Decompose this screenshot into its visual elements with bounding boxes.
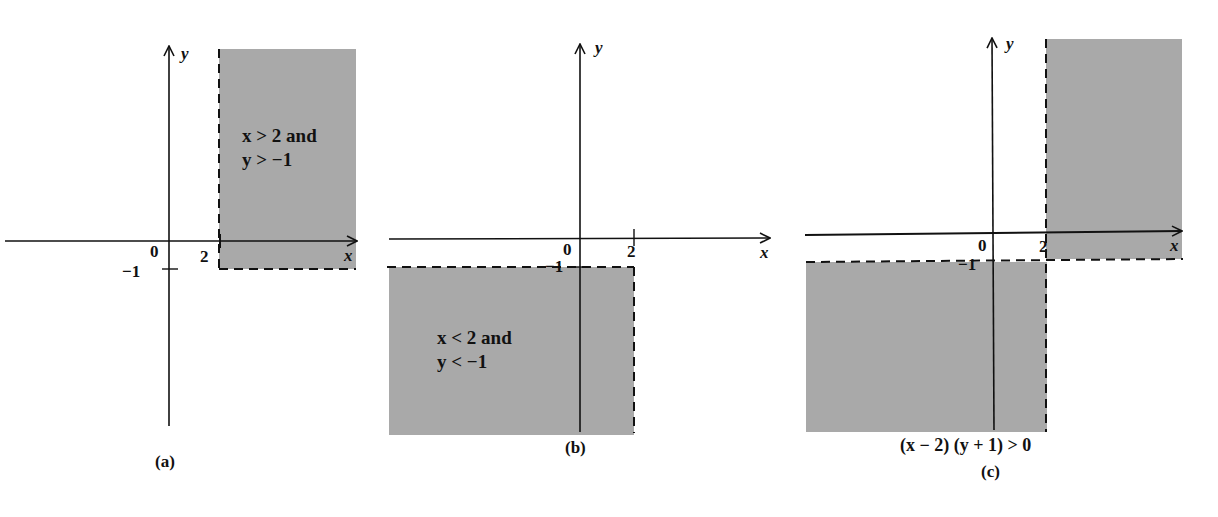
y-axis-label-c: y xyxy=(1006,34,1014,54)
x-axis-label-c: x xyxy=(1170,236,1179,256)
region-label-b: x < 2 and y < −1 xyxy=(437,326,512,374)
x-tick-label-c: 2 xyxy=(1039,237,1048,257)
y-tick-label-c: −1 xyxy=(958,255,976,275)
region-label-a-line2: y > −1 xyxy=(242,148,317,172)
y-tick-label-b: −1 xyxy=(545,257,563,277)
panel-a xyxy=(5,46,357,426)
caption-b: (b) xyxy=(565,438,586,458)
origin-label-b: 0 xyxy=(563,240,572,260)
y-axis-label-b: y xyxy=(595,38,603,58)
boundary-y-eq-neg1-c xyxy=(806,259,1183,262)
panel-c xyxy=(805,38,1183,432)
x-axis-label-a: x xyxy=(344,246,353,266)
region-label-a-line1: x > 2 and xyxy=(242,124,317,148)
caption-c: (c) xyxy=(981,462,1000,482)
y-axis-label-a: y xyxy=(181,44,189,64)
inequality-label-c: (x − 2) (y + 1) > 0 xyxy=(900,435,1031,456)
x-tick-label-b: 2 xyxy=(627,242,636,262)
origin-label-a: 0 xyxy=(150,242,159,262)
x-axis-label-b: x xyxy=(760,243,769,263)
shaded-region-c-upper xyxy=(1046,39,1182,259)
shaded-region-c-lower xyxy=(806,262,1047,432)
region-label-a: x > 2 and y > −1 xyxy=(242,124,317,172)
figure-canvas xyxy=(0,0,1218,517)
caption-a: (a) xyxy=(155,452,175,472)
region-label-b-line2: y < −1 xyxy=(437,350,512,374)
panel-b xyxy=(387,44,770,435)
origin-label-c: 0 xyxy=(978,236,987,256)
region-label-b-line1: x < 2 and xyxy=(437,326,512,350)
y-tick-label-a: −1 xyxy=(122,262,140,282)
x-tick-label-a: 2 xyxy=(200,247,209,267)
